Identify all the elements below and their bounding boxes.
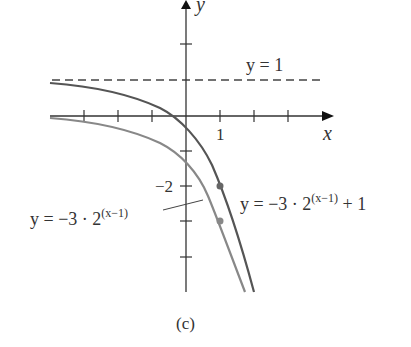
point-shifted <box>217 183 224 190</box>
curve-shifted-label: y = −3 · 2(x−1) + 1 <box>240 191 366 214</box>
y-axis-arrow-icon <box>181 0 191 9</box>
curve-base-label: y = −3 · 2(x−1) <box>30 206 128 229</box>
caption: (c) <box>176 314 195 333</box>
graph: y x 1 −2 y = 1 y = −3 · 2(x−1) y = −3 · … <box>0 0 411 347</box>
asymptote-label: y = 1 <box>246 55 283 75</box>
y-axis-label: y <box>194 0 205 16</box>
tick-label-x1: 1 <box>216 125 225 144</box>
x-axis-arrow-icon <box>322 111 334 121</box>
curve-base <box>50 118 245 292</box>
x-axis-label: x <box>322 122 332 144</box>
point-base <box>217 218 224 225</box>
tick-label-yneg2: −2 <box>155 177 173 196</box>
leader-line <box>163 200 203 210</box>
